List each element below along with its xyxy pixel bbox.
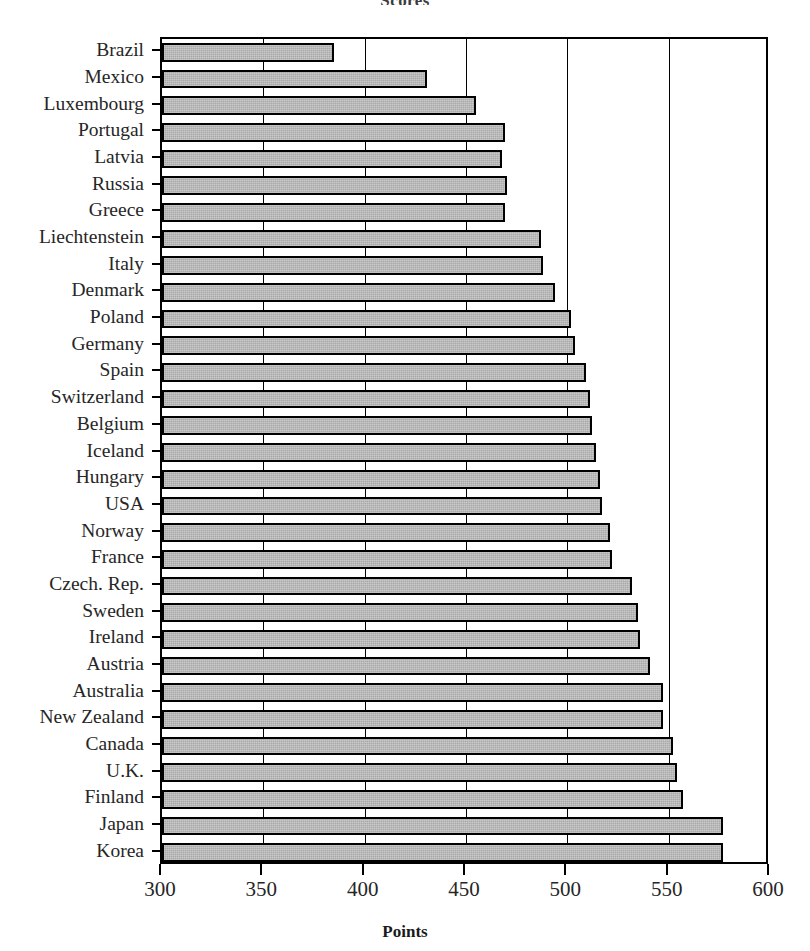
bar — [162, 283, 555, 302]
bar — [162, 710, 663, 729]
y-axis-label: Switzerland — [0, 387, 152, 407]
x-axis-tick-marks — [160, 864, 768, 876]
bar — [162, 577, 632, 596]
x-axis-tick-label: 600 — [728, 879, 808, 900]
y-axis-label: Korea — [0, 841, 152, 861]
y-axis-label: Russia — [0, 174, 152, 194]
x-axis-tick-label: 350 — [221, 879, 301, 900]
x-axis-tick — [767, 864, 769, 875]
bar — [162, 123, 505, 142]
y-axis-label: Latvia — [0, 147, 152, 167]
bar — [162, 523, 610, 542]
bar — [162, 96, 476, 115]
y-axis-label: Ireland — [0, 627, 152, 647]
y-axis-label: Spain — [0, 360, 152, 380]
bar — [162, 683, 663, 702]
x-axis-tick-label: 550 — [627, 879, 707, 900]
x-axis-tick — [564, 864, 566, 875]
bar — [162, 390, 590, 409]
x-axis-tick — [463, 864, 465, 875]
y-axis-label: Denmark — [0, 280, 152, 300]
bar — [162, 203, 505, 222]
chart-title: Scores — [0, 0, 810, 5]
y-axis-label: U.K. — [0, 761, 152, 781]
x-axis-tick-label: 400 — [323, 879, 403, 900]
bar — [162, 176, 507, 195]
bar — [162, 550, 612, 569]
y-axis-label: New Zealand — [0, 707, 152, 727]
bar — [162, 70, 427, 89]
bar — [162, 310, 571, 329]
bar — [162, 497, 602, 516]
y-axis-label: Japan — [0, 814, 152, 834]
x-axis-title: Points — [0, 922, 810, 942]
bar — [162, 443, 596, 462]
y-axis-label: Austria — [0, 654, 152, 674]
x-axis-tick-label: 450 — [424, 879, 504, 900]
bar-chart: Scores BrazilMexicoLuxembourgPortugalLat… — [0, 0, 810, 951]
bar — [162, 416, 592, 435]
bar — [162, 470, 600, 489]
y-axis-label: Portugal — [0, 120, 152, 140]
bar — [162, 43, 334, 62]
x-axis-tick-label: 300 — [120, 879, 200, 900]
bar — [162, 603, 638, 622]
x-axis-tick — [666, 864, 668, 875]
y-axis-label: Italy — [0, 254, 152, 274]
x-axis-tick — [362, 864, 364, 875]
y-axis-category-labels: BrazilMexicoLuxembourgPortugalLatviaRuss… — [0, 37, 152, 864]
x-axis-tick — [260, 864, 262, 875]
y-axis-label: Norway — [0, 521, 152, 541]
bar — [162, 336, 575, 355]
x-axis-tick-labels: 300350400450500550600 — [100, 879, 810, 909]
bar — [162, 256, 543, 275]
y-axis-label: Poland — [0, 307, 152, 327]
y-axis-label: Iceland — [0, 441, 152, 461]
bar — [162, 657, 650, 676]
y-axis-label: Luxembourg — [0, 94, 152, 114]
y-axis-label: Sweden — [0, 601, 152, 621]
bar — [162, 843, 723, 862]
y-axis-label: France — [0, 547, 152, 567]
bar — [162, 763, 677, 782]
y-axis-label: Belgium — [0, 414, 152, 434]
y-axis-label: Germany — [0, 334, 152, 354]
x-axis-tick-label: 500 — [525, 879, 605, 900]
bar — [162, 150, 502, 169]
bar — [162, 230, 541, 249]
bar — [162, 630, 640, 649]
x-axis-tick — [159, 864, 161, 875]
y-axis-label: Australia — [0, 681, 152, 701]
y-axis-label: Hungary — [0, 467, 152, 487]
y-axis-label: Brazil — [0, 40, 152, 60]
y-axis-label: USA — [0, 494, 152, 514]
bar — [162, 817, 723, 836]
bar — [162, 363, 586, 382]
y-axis-label: Mexico — [0, 67, 152, 87]
bar — [162, 737, 673, 756]
y-axis-label: Czech. Rep. — [0, 574, 152, 594]
y-axis-label: Finland — [0, 787, 152, 807]
y-axis-label: Liechtenstein — [0, 227, 152, 247]
y-axis-label: Canada — [0, 734, 152, 754]
plot-area — [160, 37, 768, 864]
bar — [162, 790, 683, 809]
plot-inner — [162, 39, 766, 862]
y-axis-label: Greece — [0, 200, 152, 220]
